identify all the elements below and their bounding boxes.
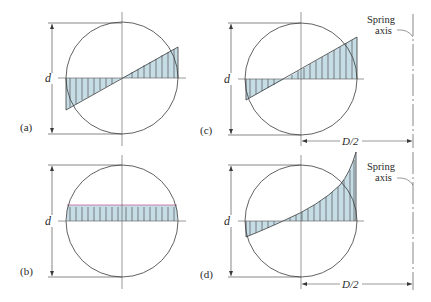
panel-d: Spring axis D/2 d (d) bbox=[200, 152, 413, 290]
spring-stress-diagram: d (a) d (b) bbox=[0, 0, 431, 302]
dimension-label-d: d bbox=[45, 71, 52, 85]
panel-label: (a) bbox=[20, 121, 33, 134]
spring-axis-label-line1: Spring bbox=[367, 161, 396, 172]
spring-axis-label-line2: axis bbox=[375, 25, 392, 36]
panel-a: d (a) bbox=[20, 12, 186, 146]
offset-label-d-half: D/2 bbox=[341, 135, 359, 147]
spring-axis-label-line2: axis bbox=[375, 172, 392, 183]
panel-label: (b) bbox=[20, 265, 33, 278]
dimension-label-d: d bbox=[224, 214, 231, 228]
dimension-label-d: d bbox=[45, 214, 52, 228]
spring-axis-label-line1: Spring bbox=[367, 14, 396, 25]
panel-b: d (b) bbox=[20, 155, 186, 289]
panel-label: (c) bbox=[200, 124, 213, 137]
dimension-label-d: d bbox=[224, 72, 231, 86]
panel-c: Spring axis D/2 d (c) bbox=[200, 12, 413, 148]
offset-label-d-half: D/2 bbox=[341, 278, 359, 290]
panel-label: (d) bbox=[200, 268, 213, 281]
